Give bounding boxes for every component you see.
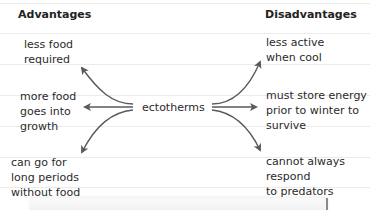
arrow-to-long-periods-icon (82, 110, 133, 152)
page-edge-shadow (30, 198, 328, 210)
arrow-to-less-active-icon (212, 62, 260, 104)
connector-arrows (0, 0, 370, 210)
arrow-to-predators-icon (212, 110, 260, 150)
arrow-to-less-food-icon (82, 68, 133, 104)
